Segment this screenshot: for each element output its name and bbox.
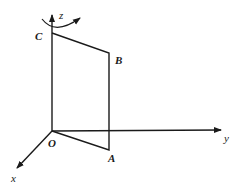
point-C-label: C	[35, 30, 43, 42]
z-axis-label: z	[58, 9, 64, 21]
point-A-label: A	[107, 152, 115, 164]
frame-OABC	[52, 33, 109, 150]
point-B-label: B	[114, 54, 122, 66]
x-axis-label: x	[10, 172, 16, 184]
x-axis	[17, 131, 52, 168]
point-O-label: O	[48, 137, 56, 149]
y-axis-label: y	[223, 132, 229, 144]
diagram-canvas: z y x C B O A	[0, 0, 242, 190]
y-axis	[52, 130, 221, 131]
